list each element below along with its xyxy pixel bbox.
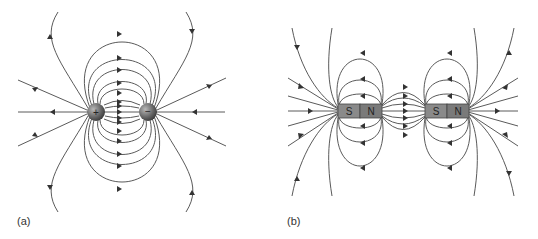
bar-magnet-2	[425, 104, 469, 118]
magnet-1-south-label: S	[346, 106, 353, 117]
panel-b-arrows	[294, 45, 512, 181]
magnet-2-north-label: N	[454, 106, 461, 117]
magnet-2-south-label: S	[433, 106, 440, 117]
svg-text:−: −	[145, 106, 151, 117]
svg-text:+: +	[93, 107, 99, 118]
panel-a-label: (a)	[17, 215, 30, 227]
magnet-1-north-label: N	[367, 106, 374, 117]
panel-b-label: (b)	[287, 215, 300, 227]
bar-magnet-1	[338, 104, 382, 118]
diagram-canvas: + −	[0, 0, 538, 239]
